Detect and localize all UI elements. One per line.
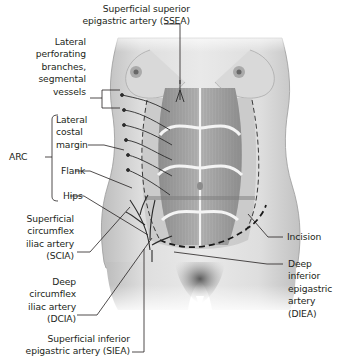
label-arc: ARC [9,151,27,163]
label-siea: Superficial inferior epigastric artery (… [14,333,130,358]
label-diea: Deep inferior epigastric artery (DIEA) [288,258,332,320]
label-dcia: Deep circumflex iliac artery (DCIA) [10,276,76,326]
label-lateral-costal-margin: Lateral costal margin [56,114,88,151]
label-ssea: Superficial superior epigastric artery (… [60,3,190,28]
label-incision: Incision [287,231,321,243]
label-lateral-perforating: Lateral perforating branches, segmental … [30,36,86,98]
label-hips: Hips [63,190,83,202]
label-flank: Flank [61,165,85,177]
label-scia: Superficial circumflex iliac artery (SCI… [10,213,74,263]
